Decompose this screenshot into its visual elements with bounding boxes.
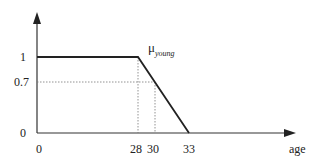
mu-subscript: young: [155, 49, 175, 58]
y-axis-arrow-icon: [33, 12, 41, 24]
curve-label: μyoung: [148, 41, 175, 60]
x-tick-30: 30: [147, 143, 159, 155]
mu-symbol: μ: [148, 40, 155, 55]
y-tick-1: 1: [20, 51, 26, 63]
membership-curve: [37, 57, 189, 133]
x-axis-arrow-icon: [284, 129, 296, 137]
chart-canvas: [0, 0, 315, 160]
x-tick-33: 33: [183, 143, 195, 155]
x-tick-0: 0: [36, 143, 42, 155]
x-tick-28: 28: [130, 143, 142, 155]
x-axis-label: age: [289, 143, 306, 155]
y-tick-0: 0: [20, 127, 26, 139]
y-tick-07: 0.7: [14, 76, 29, 88]
